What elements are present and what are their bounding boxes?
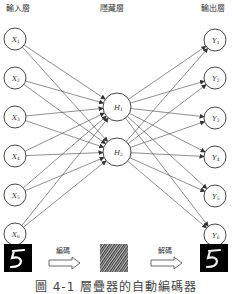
autoencoder-network: X1X2X3X4X5X6H1H2Y1Y2Y3Y4Y5Y6 [0, 0, 232, 245]
encode-arrow-icon [48, 256, 82, 270]
input-node-x5: X5 [4, 184, 26, 206]
connection-edge [26, 153, 103, 156]
digit-five-icon [200, 244, 228, 272]
connection-edge [24, 84, 106, 143]
input-node-x6: X6 [4, 223, 26, 245]
connection-edge [129, 113, 205, 152]
connection-edge [25, 157, 104, 190]
nodes: X1X2X3X4X5X6H1H2Y1Y2Y3Y4Y5Y6 [4, 28, 226, 245]
output-node-y2: Y2 [204, 67, 226, 89]
output-digit-image [200, 244, 228, 272]
output-node-y1: Y1 [204, 29, 226, 51]
connection-edge [130, 122, 204, 148]
output-node-y5: Y5 [204, 185, 226, 207]
latent-code-image [100, 244, 128, 272]
connection-edge [26, 108, 103, 116]
input-node-x1: X1 [4, 28, 26, 50]
connection-edge [126, 118, 209, 226]
connection-edge [26, 81, 104, 103]
hidden-node-h2: H2 [103, 138, 131, 166]
connection-edge [127, 116, 206, 188]
input-digit-image [4, 244, 32, 272]
connection-edge [126, 48, 208, 141]
connection-edge [130, 81, 204, 103]
input-node-x3: X3 [4, 106, 26, 128]
input-node-x2: X2 [4, 67, 26, 89]
output-node-y6: Y6 [204, 224, 226, 245]
connections [22, 45, 208, 228]
connection-edge [130, 158, 205, 192]
digit-five-icon [4, 244, 32, 272]
hidden-node-h1: H1 [103, 93, 131, 121]
encode-label: 編碼 [56, 245, 70, 255]
connection-edge [23, 116, 106, 188]
connection-edge [128, 161, 207, 228]
figure-caption: 圖 4-1 層疊器的自動編碼器 [0, 277, 232, 294]
connection-edge [22, 47, 107, 141]
connection-edge [131, 153, 204, 157]
decode-arrow-icon [150, 256, 184, 270]
connection-edge [24, 45, 105, 99]
connection-edge [24, 161, 107, 227]
output-node-y3: Y3 [204, 107, 226, 129]
connection-edge [129, 46, 206, 99]
decode-label: 解碼 [158, 245, 172, 255]
connection-edge [25, 113, 104, 151]
input-node-x4: X4 [4, 145, 26, 167]
connection-edge [131, 109, 204, 117]
output-node-y4: Y4 [204, 146, 226, 168]
